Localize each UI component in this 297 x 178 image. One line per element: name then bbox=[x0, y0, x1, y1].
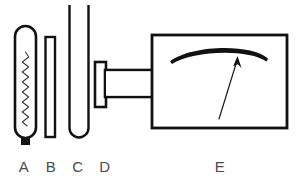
part-e-meter-box bbox=[152, 35, 287, 128]
apparatus-diagram: A B C D E bbox=[0, 0, 297, 178]
label-a: A bbox=[19, 158, 30, 175]
capsule-base-stub bbox=[21, 137, 30, 145]
diagram-canvas: A B C D E bbox=[0, 0, 297, 178]
capsule-body bbox=[15, 26, 36, 138]
part-a-capsule-with-coil bbox=[15, 26, 36, 145]
part-c-tall-u-tube bbox=[70, 5, 89, 137]
label-b: B bbox=[46, 158, 57, 175]
u-tube-body bbox=[70, 5, 89, 137]
straight-tube-body bbox=[46, 37, 56, 137]
label-e: E bbox=[215, 158, 226, 175]
part-labels: A B C D E bbox=[19, 158, 226, 175]
label-c: C bbox=[72, 158, 83, 175]
label-d: D bbox=[99, 158, 110, 175]
part-d-plunger-shaft bbox=[95, 62, 153, 107]
plunger-rod-seam bbox=[106, 72, 152, 96]
part-b-narrow-straight-tube bbox=[46, 37, 56, 137]
